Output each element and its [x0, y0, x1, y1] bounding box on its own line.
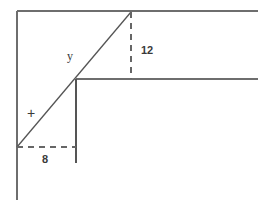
label-horizontal-leg: 8	[42, 153, 48, 165]
label-lower-hypotenuse: +	[27, 105, 35, 121]
geometry-diagram: 12 8 y +	[0, 0, 268, 212]
label-upper-hypotenuse: y	[67, 49, 73, 63]
diagram-canvas: 12 8 y +	[0, 0, 268, 212]
label-vertical-leg: 12	[141, 44, 153, 56]
